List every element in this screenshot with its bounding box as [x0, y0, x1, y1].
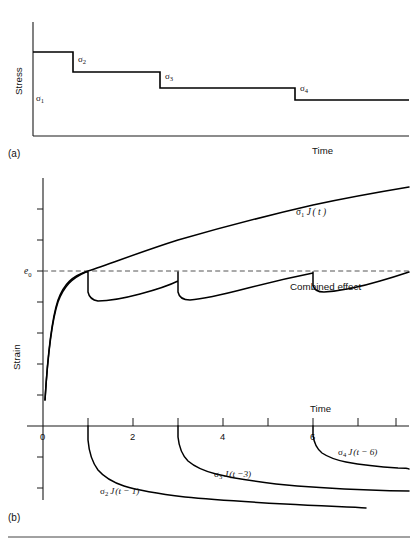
stress-marker-sigma3: σ3	[165, 71, 174, 82]
compliance-symbol: J	[307, 207, 312, 217]
panel-a-y-axis-label: Stress	[13, 67, 24, 95]
sigma-subscript: 2	[105, 490, 108, 497]
compliance-argument: (t − 6)	[353, 447, 377, 457]
curve-label-sigma4-J: σ4J(t − 6)	[338, 447, 377, 458]
stress-marker-sigma4: σ4	[300, 83, 309, 94]
curve-label-sigma2-J: σ2J(t − 1)	[100, 486, 139, 497]
curve-label-sigma1-J: σ1J( t )	[296, 207, 326, 218]
compliance-argument: ( t )	[313, 207, 327, 218]
panel-b-strain-plot: 0 2 4 6 e0 σ1J( t )	[8, 178, 409, 523]
curve-label-sigma3-J: σ3J(t −3)	[214, 469, 251, 480]
sigma-subscript: 3	[219, 473, 223, 480]
creep-superposition-figure: σ1 σ2 σ3 σ4 Stress Time (a)	[0, 0, 418, 543]
panel-b-xtick-label-2: 2	[130, 431, 135, 442]
panel-b-x-axis-label: Time	[310, 403, 331, 414]
sigma-subscript: 1	[41, 97, 44, 104]
sigma3-recovery-curve	[178, 426, 409, 491]
panel-b-y-axis-label: Strain	[11, 344, 22, 370]
compliance-argument: (t − 1)	[115, 486, 139, 496]
sigma-subscript: 1	[301, 211, 304, 218]
e0-label: e0	[24, 265, 32, 278]
stress-step-curve	[33, 52, 409, 100]
sigma-subscript: 4	[343, 451, 347, 458]
e0-subscript: 0	[28, 271, 32, 278]
sigma-subscript: 2	[83, 58, 86, 65]
sigma-subscript: 4	[305, 87, 309, 94]
panel-b-xtick-label-4: 4	[220, 431, 225, 442]
panel-a-label: (a)	[8, 148, 20, 159]
panel-a-stress-plot: σ1 σ2 σ3 σ4 Stress Time (a)	[8, 22, 409, 159]
stress-marker-sigma2: σ2	[78, 54, 86, 65]
figure-canvas: σ1 σ2 σ3 σ4 Stress Time (a)	[0, 0, 418, 543]
panel-b-xtick-label-0: 0	[40, 431, 45, 442]
sigma-subscript: 3	[170, 75, 174, 82]
panel-b-label: (b)	[8, 512, 20, 523]
curve-label-combined-effect: Combined effect	[290, 281, 361, 292]
compliance-argument: (t −3)	[229, 469, 251, 479]
panel-a-x-axis-label: Time	[312, 145, 333, 156]
stress-marker-sigma1: σ1	[36, 93, 44, 104]
